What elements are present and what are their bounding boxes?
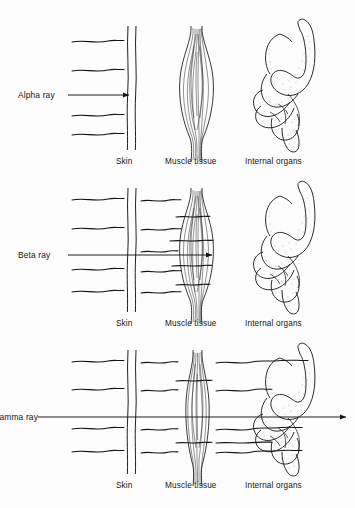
organs-label-beta: Internal organs	[245, 319, 302, 328]
radiation-penetration-figure: Alpha ray Skin Muscle tissue Internal or…	[0, 0, 355, 508]
organs-label-gamma: Internal organs	[245, 481, 302, 490]
organs-label-alpha: Internal organs	[245, 157, 302, 166]
alpha-ray-label: Alpha ray	[18, 90, 55, 100]
skin-label-beta: Skin	[116, 319, 133, 328]
muscle-label-gamma: Muscle tissue	[165, 481, 217, 490]
skin-label-gamma: Skin	[116, 481, 133, 490]
figure-canvas: Alpha ray Skin Muscle tissue Internal or…	[0, 0, 355, 508]
gamma-ray-label: Gamma ray	[0, 412, 39, 422]
beta-ray-label: Beta ray	[18, 250, 51, 260]
muscle-label-beta: Muscle tissue	[165, 319, 217, 328]
muscle-label-alpha: Muscle tissue	[165, 157, 217, 166]
skin-label-alpha: Skin	[116, 157, 133, 166]
